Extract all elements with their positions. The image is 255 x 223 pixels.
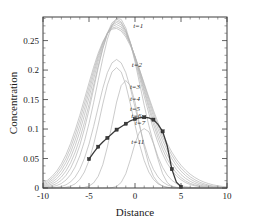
- data-point-marker: [106, 136, 109, 139]
- x-tick-label: 5: [179, 191, 184, 201]
- curve-label-t7: t=7: [135, 119, 146, 127]
- figure-container: -10-50510 00.050.10.150.20.25 t=1t=2t=3t…: [0, 0, 255, 223]
- y-tick-label: 0.2: [28, 65, 39, 75]
- data-point-marker: [87, 158, 90, 161]
- y-tick-label: 0.05: [23, 154, 39, 164]
- curve-label-t2: t=2: [132, 61, 143, 69]
- y-tick-label: 0.1: [28, 124, 39, 134]
- data-point-marker: [115, 128, 118, 131]
- x-tick-label: 0: [133, 191, 138, 201]
- curve-label-t11: t=11: [131, 138, 144, 146]
- data-point-marker: [143, 116, 146, 119]
- diffusion-concentration-chart: -10-50510 00.050.10.150.20.25 t=1t=2t=3t…: [0, 0, 255, 223]
- x-tick-label: 10: [223, 191, 233, 201]
- curve-label-t1: t=1: [133, 22, 143, 30]
- data-point-marker: [170, 168, 173, 171]
- numerical-solution-curve: [89, 117, 181, 187]
- data-point-marker: [97, 145, 100, 148]
- data-point-marker: [124, 122, 127, 125]
- y-axis-title: Concentration: [7, 71, 19, 134]
- data-point-marker: [161, 130, 164, 133]
- highlight-curve-group: [89, 117, 181, 187]
- x-tick-label: -5: [85, 191, 93, 201]
- curve-label-t3: t=3: [130, 83, 141, 91]
- data-point-marker: [152, 118, 155, 121]
- x-axis-title: Distance: [116, 206, 155, 218]
- y-tick-label: 0.25: [23, 36, 39, 46]
- y-axis-ticks: 00.050.10.150.20.25: [23, 18, 227, 193]
- gaussian-curve-group: [43, 18, 227, 188]
- y-tick-label: 0: [35, 183, 40, 193]
- curve-label-t4: t=4: [130, 95, 141, 103]
- y-tick-label: 0.15: [23, 95, 39, 105]
